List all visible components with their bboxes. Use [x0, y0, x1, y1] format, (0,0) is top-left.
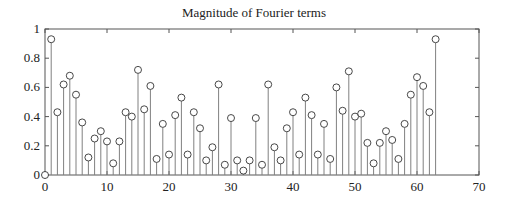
stem-marker: [85, 154, 92, 161]
stem-point: [172, 112, 179, 175]
stem-point: [48, 36, 55, 175]
stem-marker: [79, 119, 86, 126]
y-tick-label: 1: [34, 21, 41, 36]
stem-marker: [209, 144, 216, 151]
stem-point: [426, 109, 433, 175]
stem-point: [66, 72, 73, 175]
x-tick-label: 30: [225, 179, 238, 194]
stem-marker: [104, 138, 111, 145]
stem-point: [116, 138, 123, 175]
stem-point: [407, 91, 414, 175]
stem-marker: [234, 157, 241, 164]
stem-marker: [283, 125, 290, 132]
stem-point: [91, 135, 98, 175]
stem-point: [401, 120, 408, 175]
stem-point: [42, 172, 49, 179]
stem-marker: [383, 128, 390, 135]
stem-marker: [401, 120, 408, 127]
stem-point: [147, 82, 154, 175]
stem-point: [234, 157, 241, 175]
stem-marker: [122, 109, 129, 116]
stem-marker: [172, 112, 179, 119]
stem-marker: [91, 135, 98, 142]
stem-marker: [190, 109, 197, 116]
stem-marker: [110, 160, 117, 167]
stem-point: [60, 81, 67, 175]
stem-point: [277, 157, 284, 175]
stem-point: [265, 81, 272, 175]
stem-marker: [395, 155, 402, 162]
stem-marker: [296, 151, 303, 158]
stem-marker: [389, 136, 396, 143]
x-tick-label: 60: [411, 179, 424, 194]
stem-point: [302, 94, 309, 175]
stem-marker: [314, 151, 321, 158]
stem-series: [42, 36, 440, 179]
stem-point: [283, 125, 290, 175]
stem-marker: [308, 112, 315, 119]
y-tick-label: 0.8: [24, 50, 40, 65]
stem-point: [73, 91, 80, 175]
stem-marker: [178, 94, 185, 101]
stem-point: [178, 94, 185, 175]
stem-marker: [246, 157, 253, 164]
stem-point: [395, 155, 402, 175]
stem-point: [110, 160, 117, 175]
stem-point: [197, 125, 204, 175]
stem-point: [259, 161, 266, 175]
stem-point: [327, 155, 334, 175]
stem-marker: [290, 109, 297, 116]
stem-marker: [48, 36, 55, 43]
stem-marker: [420, 82, 427, 89]
y-tick-label: 0: [34, 167, 41, 182]
stem-point: [153, 155, 160, 175]
stem-point: [141, 106, 148, 175]
stem-point: [345, 68, 352, 175]
stem-marker: [327, 155, 334, 162]
stem-marker: [277, 157, 284, 164]
stem-point: [97, 128, 104, 175]
stem-marker: [370, 160, 377, 167]
stem-marker: [259, 161, 266, 168]
stem-marker: [203, 157, 210, 164]
stem-point: [215, 81, 222, 175]
stem-point: [339, 107, 346, 175]
stem-marker: [135, 66, 142, 73]
stem-point: [184, 151, 191, 175]
stem-marker: [252, 115, 259, 122]
stem-marker: [432, 36, 439, 43]
stem-marker: [240, 167, 247, 174]
stem-marker: [228, 115, 235, 122]
stem-marker: [321, 120, 328, 127]
stem-point: [79, 119, 86, 175]
stem-point: [389, 136, 396, 175]
x-tick-label: 70: [473, 179, 486, 194]
stem-point: [166, 151, 173, 175]
stem-marker: [153, 155, 160, 162]
stem-point: [135, 66, 142, 175]
stem-point: [203, 157, 210, 175]
stem-point: [414, 74, 421, 175]
stem-point: [296, 151, 303, 175]
stem-marker: [42, 172, 49, 179]
stem-point: [290, 109, 297, 175]
stem-marker: [166, 151, 173, 158]
stem-marker: [147, 82, 154, 89]
chart-canvas: Magnitude of Fourier terms 0102030405060…: [0, 0, 508, 206]
stem-marker: [66, 72, 73, 79]
stem-point: [432, 36, 439, 175]
stem-point: [321, 120, 328, 175]
stem-point: [376, 139, 383, 175]
stem-marker: [54, 109, 61, 116]
stem-marker: [141, 106, 148, 113]
x-tick-label: 0: [42, 179, 49, 194]
stem-point: [383, 128, 390, 175]
stem-point: [364, 139, 371, 175]
stem-point: [308, 112, 315, 175]
stem-marker: [364, 139, 371, 146]
x-tick-label: 50: [349, 179, 362, 194]
stem-point: [352, 113, 359, 175]
stem-point: [85, 154, 92, 175]
stem-marker: [414, 74, 421, 81]
stem-marker: [128, 113, 135, 120]
